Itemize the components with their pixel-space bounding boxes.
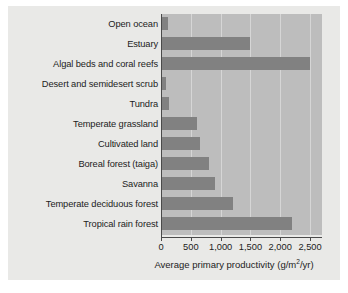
bar: [161, 17, 168, 30]
x-tick-label: 1,000: [209, 242, 232, 252]
bar: [161, 177, 215, 190]
bar: [161, 117, 197, 130]
bar-row: [161, 94, 322, 114]
x-tick: [280, 237, 281, 241]
x-axis-line: [161, 237, 322, 238]
bar-row: [161, 214, 322, 234]
x-tick-label: 0: [158, 242, 163, 252]
category-label: Algal beds and coral reefs: [8, 54, 158, 74]
bar: [161, 97, 169, 110]
x-tick: [250, 237, 251, 241]
category-label: Temperate grassland: [8, 114, 158, 134]
bar-chart: Open oceanEstuaryAlgal beds and coral re…: [8, 6, 340, 280]
bar-row: [161, 134, 322, 154]
category-label: Temperate deciduous forest: [8, 194, 158, 214]
x-tick: [191, 237, 192, 241]
x-tick-label: 2,000: [269, 242, 292, 252]
x-axis-title: Average primary productivity (g/m2/yr): [128, 258, 340, 270]
bar-row: [161, 34, 322, 54]
x-tick-label: 2,500: [298, 242, 321, 252]
bar-row: [161, 194, 322, 214]
figure-container: Open oceanEstuaryAlgal beds and coral re…: [8, 6, 340, 280]
bar: [161, 57, 310, 70]
x-tick-label: 1,500: [239, 242, 262, 252]
category-label: Desert and semidesert scrub: [8, 74, 158, 94]
bar-row: [161, 54, 322, 74]
category-label: Boreal forest (taiga): [8, 154, 158, 174]
x-tick: [310, 237, 311, 241]
bar: [161, 157, 209, 170]
bar-row: [161, 154, 322, 174]
bar-row: [161, 174, 322, 194]
bar-row: [161, 114, 322, 134]
category-label: Estuary: [8, 34, 158, 54]
x-tick: [161, 237, 162, 241]
bar: [161, 37, 250, 50]
bar-row: [161, 74, 322, 94]
bar: [161, 137, 200, 150]
x-tick: [221, 237, 222, 241]
x-tick-label: 500: [183, 242, 199, 252]
y-axis-line: [161, 14, 162, 237]
bar: [161, 217, 292, 230]
category-label: Tropical rain forest: [8, 214, 158, 234]
category-label: Open ocean: [8, 14, 158, 34]
category-label: Savanna: [8, 174, 158, 194]
category-label: Tundra: [8, 94, 158, 114]
bar-row: [161, 14, 322, 34]
category-label: Cultivated land: [8, 134, 158, 154]
category-label-axis: Open oceanEstuaryAlgal beds and coral re…: [8, 14, 158, 235]
plot-area: [161, 14, 322, 235]
bar: [161, 197, 233, 210]
